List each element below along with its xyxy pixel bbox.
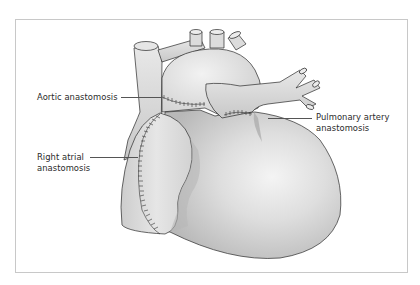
label-text-line1: Pulmonary artery xyxy=(316,112,390,123)
pulmonary-leader-line xyxy=(268,118,312,119)
label-text: Aortic anastomosis xyxy=(37,92,118,102)
aortic-leader-line xyxy=(121,97,161,98)
heart-illustration xyxy=(0,0,420,285)
label-aortic-anastomosis: Aortic anastomosis xyxy=(37,92,118,103)
label-pulmonary-artery-anastomosis: Pulmonary artery anastomosis xyxy=(316,112,390,134)
label-text-line2: anastomosis xyxy=(37,163,90,174)
label-text-line2: anastomosis xyxy=(316,123,390,134)
label-text-line1: Right atrial xyxy=(37,152,90,163)
right-atrial-leader-line xyxy=(90,157,138,158)
label-right-atrial-anastomosis: Right atrial anastomosis xyxy=(37,152,90,174)
